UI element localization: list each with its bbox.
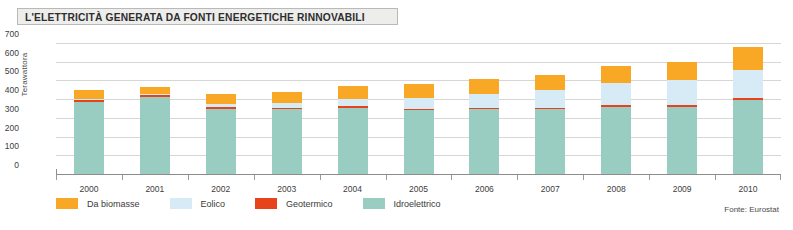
legend-swatch-biomass [56,198,78,209]
x-axis-tick-label: 2008 [586,184,646,194]
legend-swatch-geothermal [255,198,277,209]
x-axis-tick [122,175,123,180]
bar-segment-idroelettrico [272,109,302,174]
y-axis-tick-label: 700 [0,29,19,39]
x-axis-tick-label: 2010 [718,184,778,194]
bar-segment-da-biomasse [469,79,499,95]
bar-segment-eolico [601,83,631,105]
x-axis-tick [254,175,255,180]
x-axis-tick [320,175,321,180]
x-axis-tick-label: 2006 [454,184,514,194]
bar-segment-eolico [535,90,565,108]
bar-segment-da-biomasse [74,90,104,99]
chart-legend: Da biomasseEolicoGeotermicoIdroelettrico [56,198,471,209]
x-axis-tick [715,175,716,180]
y-axis-tick-label: 0 [0,160,19,170]
bar-segment-idroelettrico [140,97,170,174]
bar-segment-da-biomasse [272,92,302,103]
bar-2003[interactable] [272,92,302,174]
x-axis-tick-label: 2005 [389,184,449,194]
bar-segment-da-biomasse [404,84,434,98]
bar-2005[interactable] [404,84,434,174]
x-axis-tick [56,175,57,180]
bar-segment-eolico [667,80,697,104]
x-axis-tick-label: 2009 [652,184,712,194]
source-note: Fonte: Eurostat [724,205,779,214]
x-axis-tick-label: 2001 [125,184,185,194]
bar-segment-idroelettrico [733,100,763,174]
bar-segment-eolico [404,98,434,108]
x-axis-tick [188,175,189,180]
plot-area: 0100200300400500600700 20002001200220032… [56,44,781,175]
bar-2004[interactable] [338,86,368,174]
legend-item-idroelettrico[interactable]: Idroelettrico [363,198,441,209]
x-axis-tick [451,175,452,180]
bar-2007[interactable] [535,75,565,174]
gridline [56,43,781,44]
bar-2001[interactable] [140,87,170,174]
page-title: L'ELETTRICITÀ GENERATA DA FONTI ENERGETI… [25,11,365,23]
bar-segment-idroelettrico [601,107,631,174]
bar-segment-da-biomasse [206,94,236,104]
x-axis-tick [386,175,387,180]
bar-segment-idroelettrico [469,109,499,174]
bar-segment-idroelettrico [667,107,697,174]
bar-segment-idroelettrico [535,109,565,174]
x-axis-tick-label: 2000 [59,184,119,194]
legend-item-label: Da biomasse [87,199,140,209]
x-axis-tick-label: 2002 [191,184,251,194]
x-axis-tick [780,175,781,180]
chart-canvas: Terawattora 0100200300400500600700 20002… [0,34,793,184]
bar-segment-da-biomasse [667,62,697,81]
y-axis-tick-label: 400 [0,85,19,95]
x-axis-tick [517,175,518,180]
legend-swatch-wind [170,198,192,209]
y-axis-tick-label: 500 [0,66,19,76]
legend-item-da-biomasse[interactable]: Da biomasse [56,198,140,209]
x-axis-tick [649,175,650,180]
x-axis-tick [583,175,584,180]
bar-2002[interactable] [206,94,236,174]
x-axis-tick-label: 2004 [323,184,383,194]
legend-item-geotermico[interactable]: Geotermico [255,198,333,209]
y-axis-tick-label: 600 [0,48,19,58]
bar-2006[interactable] [469,79,499,174]
bar-segment-idroelettrico [338,108,368,174]
bar-segment-da-biomasse [535,75,565,90]
bar-2008[interactable] [601,66,631,174]
bar-segment-idroelettrico [404,110,434,174]
bar-segment-idroelettrico [74,102,104,174]
x-axis-tick-label: 2007 [520,184,580,194]
y-axis-title: Terawattora [20,25,29,125]
bar-2000[interactable] [74,90,104,174]
y-axis-line [56,169,57,175]
bar-segment-da-biomasse [733,47,763,69]
x-axis-tick-label: 2003 [257,184,317,194]
bar-2009[interactable] [667,62,697,174]
legend-item-label: Idroelettrico [394,199,441,209]
bar-segment-idroelettrico [206,109,236,175]
chart-title-box: L'ELETTRICITÀ GENERATA DA FONTI ENERGETI… [17,8,398,25]
y-axis-tick-label: 100 [0,141,19,151]
legend-item-eolico[interactable]: Eolico [170,198,226,209]
y-axis-tick-label: 200 [0,123,19,133]
legend-swatch-hydro [363,198,385,209]
legend-item-label: Geotermico [286,199,333,209]
x-axis-line [56,174,781,175]
bar-2010[interactable] [733,47,763,174]
legend-item-label: Eolico [201,199,226,209]
bar-segment-da-biomasse [601,66,631,83]
bar-segment-da-biomasse [338,86,368,99]
bar-segment-eolico [733,70,763,98]
bar-segment-eolico [469,94,499,107]
y-axis-tick-label: 300 [0,104,19,114]
